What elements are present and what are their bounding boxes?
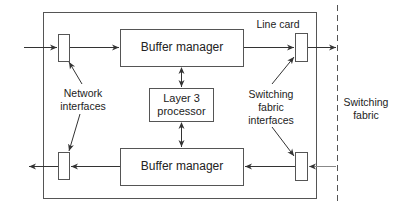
fabric-interfaces-label-line1: Switching	[245, 88, 297, 101]
layer3-label-line1: Layer 3	[149, 92, 214, 105]
switching-fabric-label-line2: fabric	[340, 109, 392, 122]
layer3-label-line2: processor	[149, 105, 214, 118]
network-interfaces-label-line2: interfaces	[58, 100, 108, 113]
buffer-manager-bottom-label: Buffer manager	[120, 160, 244, 173]
network-interface-bottom	[59, 153, 70, 180]
switching-fabric-label-line1: Switching	[340, 96, 392, 109]
buffer-manager-top-label: Buffer manager	[120, 41, 244, 54]
network-interfaces-label-line1: Network	[58, 87, 108, 100]
network-interface-top	[59, 35, 70, 62]
fabric-interfaces-label-line3: interfaces	[245, 114, 297, 127]
fabric-interface-top	[296, 34, 308, 62]
fabric-interfaces-label-line2: fabric	[245, 101, 297, 114]
fabric-interface-bottom	[296, 153, 308, 181]
line-card-label: Line card	[248, 18, 308, 31]
